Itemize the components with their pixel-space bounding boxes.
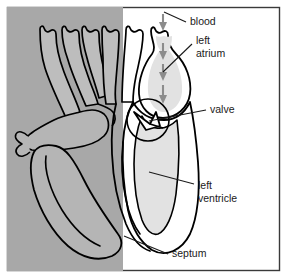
heart-diagram-svg: blood left atrium valve left ventricle s…: [0, 0, 287, 279]
label-blood: blood: [190, 15, 216, 27]
label-left-atrium-line1: left: [196, 34, 210, 46]
heart-diagram-figure: blood left atrium valve left ventricle s…: [0, 0, 287, 279]
label-left-ventricle-line1: left: [198, 179, 212, 191]
label-septum: septum: [172, 247, 207, 259]
label-left-atrium-line2: atrium: [196, 47, 225, 59]
label-left-ventricle-line2: ventricle: [198, 192, 237, 204]
left-ventricle-group: [123, 102, 199, 253]
label-valve: valve: [210, 103, 235, 115]
